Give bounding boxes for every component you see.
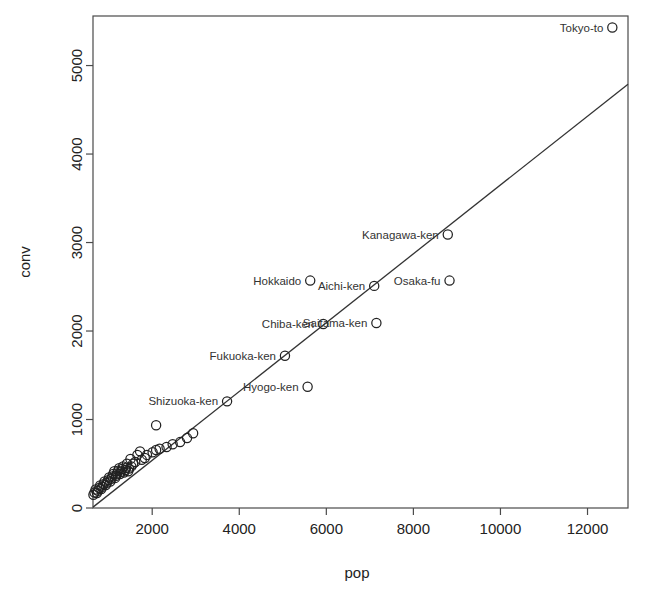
point-label: Osaka-fu (394, 275, 441, 287)
regression-line (93, 84, 628, 507)
data-point-labeled (608, 23, 617, 32)
point-label: Hokkaido (253, 275, 301, 287)
plot-frame (93, 16, 628, 508)
data-points (89, 23, 617, 499)
data-point-labeled (443, 230, 452, 239)
y-tick-label: 4000 (68, 137, 85, 170)
x-axis-tick-labels: 20004000600080001000012000 (136, 520, 609, 537)
y-tick-label: 2000 (68, 314, 85, 347)
data-point (189, 429, 198, 438)
y-axis-tick-labels: 010002000300040005000 (68, 49, 85, 512)
y-axis-title: conv (16, 246, 33, 278)
x-tick-label: 10000 (480, 520, 522, 537)
point-label: Fukuoka-ken (209, 350, 275, 362)
data-point (152, 421, 161, 430)
point-labels: Tokyo-toKanagawa-kenOsaka-fuAichi-kenHok… (148, 22, 603, 408)
y-tick-label: 3000 (68, 226, 85, 259)
x-tick-label: 6000 (310, 520, 343, 537)
x-tick-label: 4000 (223, 520, 256, 537)
scatter-plot-figure: 20004000600080001000012000 0100020003000… (0, 0, 649, 602)
point-label: Shizuoka-ken (148, 395, 218, 407)
point-label: Chiba-ken (262, 318, 314, 330)
y-axis-ticks (86, 66, 93, 508)
y-tick-label: 5000 (68, 49, 85, 82)
x-tick-label: 2000 (136, 520, 169, 537)
x-axis-ticks (152, 508, 587, 515)
x-tick-label: 8000 (397, 520, 430, 537)
data-point-labeled (372, 318, 381, 327)
point-label: Kanagawa-ken (362, 229, 439, 241)
data-point-labeled (370, 281, 379, 290)
chart-canvas: 20004000600080001000012000 0100020003000… (0, 0, 649, 602)
point-label: Tokyo-to (560, 22, 603, 34)
x-axis-title: pop (344, 564, 369, 581)
y-tick-label: 1000 (68, 403, 85, 436)
data-point-labeled (306, 276, 315, 285)
point-label: Hyogo-ken (243, 381, 299, 393)
point-label: Aichi-ken (318, 280, 365, 292)
x-tick-label: 12000 (567, 520, 609, 537)
data-point-labeled (303, 382, 312, 391)
data-point-labeled (445, 276, 454, 285)
data-point (182, 433, 191, 442)
y-tick-label: 0 (68, 504, 85, 512)
